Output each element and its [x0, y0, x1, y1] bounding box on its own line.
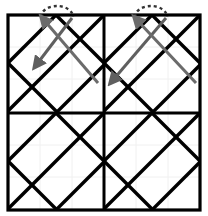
figure-root	[0, 0, 208, 216]
lattice-figure-svg	[0, 0, 208, 216]
